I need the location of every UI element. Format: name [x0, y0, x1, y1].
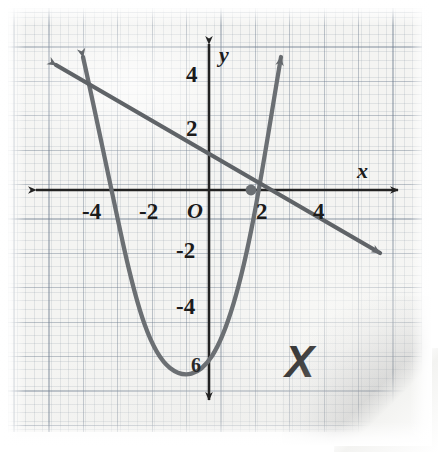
- x-axis-label: x: [357, 160, 368, 182]
- y-axis-label: y: [219, 44, 229, 66]
- x-tick-neg4: -4: [82, 200, 101, 223]
- x-tick-2: 2: [256, 200, 268, 223]
- origin-label: O: [187, 200, 203, 222]
- y-tick-2: 2: [186, 117, 198, 140]
- x-tick-4: 4: [313, 200, 325, 223]
- intersection-point: [246, 185, 257, 196]
- y-tick-neg4: -4: [176, 295, 195, 318]
- y-tick-neg6: 6: [191, 355, 201, 375]
- x-annotation-mark: X: [285, 340, 314, 384]
- parabola-curve: [83, 57, 281, 374]
- y-tick-4: 4: [186, 63, 198, 86]
- x-tick-neg2: -2: [139, 200, 158, 223]
- y-tick-neg2: -2: [176, 239, 195, 262]
